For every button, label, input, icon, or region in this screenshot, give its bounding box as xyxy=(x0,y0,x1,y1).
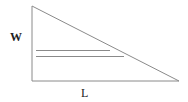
width-label: W xyxy=(10,31,22,43)
right-triangle xyxy=(32,6,179,81)
length-label: L xyxy=(81,87,88,99)
triangle-diagram xyxy=(0,0,188,102)
